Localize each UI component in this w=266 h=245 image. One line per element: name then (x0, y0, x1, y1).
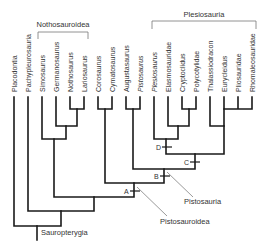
nothosauroidea-label: Nothosauroidea (37, 20, 91, 29)
taxon-label: Polycotylidae (193, 51, 201, 92)
taxon-label: Rhomaleosauridae (249, 33, 256, 92)
tree-branches (14, 97, 252, 240)
taxon-label: Simosaurus (39, 55, 46, 92)
taxon-label: Pliosauridae (235, 53, 242, 92)
taxon-label: Thalassiodracon (207, 41, 214, 92)
taxon-label: Nothosaurus (67, 52, 74, 92)
taxon-label: Corosaurus (95, 55, 102, 92)
plesiosauria-label: Plesiosauria (184, 10, 226, 19)
node-label-a: A (124, 188, 129, 195)
taxon-label: Placodontia (11, 55, 18, 92)
taxon-labels: Placodontia Pachypleurosauria Simosaurus… (11, 33, 256, 92)
node-label-d: D (156, 144, 161, 151)
taxon-label: Cryptoclidus (179, 53, 187, 92)
pistosauroidea-label: Pistosauroidea (160, 217, 210, 226)
taxon-label: Eurycleidus (221, 55, 229, 92)
plesiosauria-bracket: Plesiosauria (152, 10, 256, 29)
nothosauroidea-bracket: Nothosauroidea (37, 20, 91, 39)
taxon-label: Germanosaurus (53, 41, 60, 92)
taxon-label: Pistosaurus (137, 55, 144, 92)
node-label-c: C (184, 159, 189, 166)
taxon-label: Elasmosauridae (165, 42, 172, 92)
pointer-lines (137, 172, 193, 216)
node-label-b: B (154, 173, 159, 180)
taxon-label: Plesiosaurus (151, 51, 158, 92)
taxon-label: Augustasaurus (123, 45, 131, 92)
taxon-label: Pachypleurosauria (25, 34, 33, 92)
pistosauria-label: Pistosauria (184, 197, 222, 206)
taxon-label: Cymatosaurus (109, 46, 117, 92)
taxon-label: Lariosaurus (81, 55, 88, 92)
cladogram: Nothosauroidea Plesiosauria Placodontia … (0, 0, 266, 245)
sauropterygia-label: Sauropterygia (41, 228, 89, 237)
